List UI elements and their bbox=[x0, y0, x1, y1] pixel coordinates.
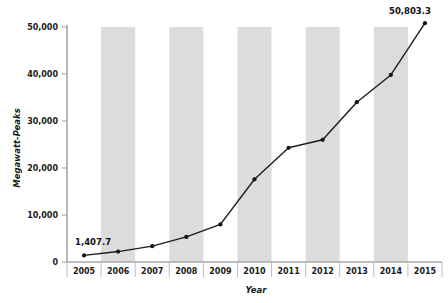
marker-2012 bbox=[321, 138, 325, 142]
marker-2014 bbox=[389, 73, 393, 77]
alternating-bands bbox=[101, 27, 408, 262]
x-tick-label-2005: 2005 bbox=[73, 267, 96, 276]
band-2006 bbox=[101, 27, 135, 262]
marker-2011 bbox=[286, 146, 290, 150]
y-tick-label-10000: 10,000 bbox=[27, 211, 58, 220]
y-tick-label-20000: 20,000 bbox=[27, 164, 58, 173]
last-point-data-label: 50,803.3 bbox=[389, 6, 431, 16]
y-tick-label-30000: 30,000 bbox=[27, 117, 58, 126]
x-tick-label-2008: 2008 bbox=[175, 267, 198, 276]
y-tick-label-0: 0 bbox=[52, 258, 58, 267]
band-2012 bbox=[306, 27, 340, 262]
marker-2010 bbox=[252, 177, 256, 181]
x-tick-label-2006: 2006 bbox=[107, 267, 130, 276]
marker-2007 bbox=[150, 244, 154, 248]
marker-2015 bbox=[423, 21, 427, 25]
x-tick-label-2009: 2009 bbox=[209, 267, 232, 276]
marker-2009 bbox=[218, 222, 222, 226]
x-tick-label-2011: 2011 bbox=[277, 267, 300, 276]
chart-container: 010,00020,00030,00040,00050,000 20052006… bbox=[0, 0, 448, 303]
marker-2008 bbox=[184, 235, 188, 239]
x-axis-title: Year bbox=[246, 285, 268, 295]
x-tick-label-2015: 2015 bbox=[414, 267, 437, 276]
x-tick-label-2014: 2014 bbox=[380, 267, 403, 276]
x-tick-label-2013: 2013 bbox=[346, 267, 368, 276]
band-2008 bbox=[169, 27, 203, 262]
band-2014 bbox=[374, 27, 408, 262]
y-tick-label-40000: 40,000 bbox=[27, 70, 58, 79]
marker-2013 bbox=[355, 100, 359, 104]
y-tick-label-50000: 50,000 bbox=[27, 23, 58, 32]
first-point-data-label: 1,407.7 bbox=[75, 237, 111, 247]
x-tick-label-2007: 2007 bbox=[141, 267, 163, 276]
y-axis-ticks: 010,00020,00030,00040,00050,000 bbox=[27, 23, 67, 267]
line-chart: 010,00020,00030,00040,00050,000 20052006… bbox=[0, 0, 448, 303]
marker-2006 bbox=[116, 249, 120, 253]
x-tick-label-2012: 2012 bbox=[312, 267, 334, 276]
band-2010 bbox=[237, 27, 271, 262]
y-axis-title: Megawatt-Peaks bbox=[12, 108, 22, 188]
marker-2005 bbox=[82, 253, 86, 257]
x-axis-ticks: 2005200620072008200920102011201220132014… bbox=[67, 262, 442, 277]
x-tick-label-2010: 2010 bbox=[243, 267, 266, 276]
